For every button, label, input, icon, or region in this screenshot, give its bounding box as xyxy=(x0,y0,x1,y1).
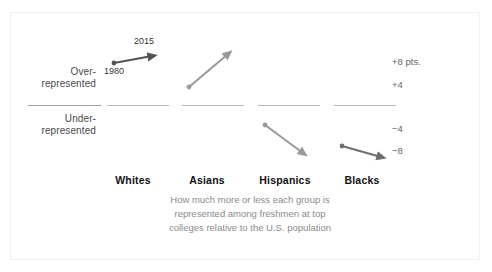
group-label-hispanics: Hispanics xyxy=(245,174,325,186)
group-label-whites: Whites xyxy=(93,174,173,186)
annotation-year-1980: 1980 xyxy=(104,66,124,76)
group-label-asians: Asians xyxy=(167,174,247,186)
annotation-year-2015: 2015 xyxy=(134,36,154,46)
arrow-whites xyxy=(112,56,152,65)
chart-caption: How much more or less each group is repr… xyxy=(120,193,380,235)
arrow-asians xyxy=(187,54,228,89)
arrow-hispanics xyxy=(263,123,303,153)
arrow-blacks xyxy=(340,144,381,157)
chart-plot-area: Over- represented Under- represented +8 … xyxy=(0,0,492,272)
group-label-blacks: Blacks xyxy=(322,174,402,186)
